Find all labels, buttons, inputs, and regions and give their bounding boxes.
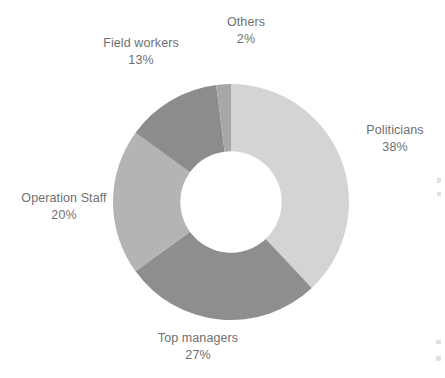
slice-label-top-managers-value: 27% <box>123 347 273 364</box>
scan-artifact-bottom-lower <box>436 356 441 361</box>
scan-artifact-bottom-upper <box>436 340 441 344</box>
slice-label-politicians: Politicians 38% <box>345 122 445 155</box>
slice-label-operation-staff-name: Operation Staff <box>2 190 126 207</box>
slice-label-top-managers: Top managers 27% <box>123 330 273 363</box>
slice-label-field-workers-name: Field workers <box>66 35 216 52</box>
scan-artifact-right-lower <box>437 192 441 196</box>
donut-slice-group <box>113 84 349 320</box>
slice-label-politicians-name: Politicians <box>345 122 445 139</box>
slice-label-field-workers: Field workers 13% <box>66 35 216 68</box>
slice-label-others-name: Others <box>186 14 306 31</box>
slice-label-operation-staff-value: 20% <box>2 207 126 224</box>
slice-label-field-workers-value: 13% <box>66 52 216 69</box>
slice-label-operation-staff: Operation Staff 20% <box>2 190 126 223</box>
slice-label-politicians-value: 38% <box>345 139 445 156</box>
donut-chart: Others 2% Field workers 13% Politicians … <box>0 0 445 378</box>
scan-artifact-right-upper <box>437 178 441 183</box>
slice-label-top-managers-name: Top managers <box>123 330 273 347</box>
